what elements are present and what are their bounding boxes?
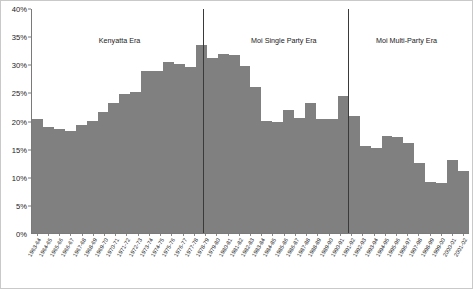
bar — [349, 116, 360, 233]
x-axis-tick-mark — [418, 234, 419, 236]
x-axis-tick: 1972-73 — [132, 234, 143, 289]
bar — [185, 67, 196, 233]
x-axis-tick: 2001-02 — [458, 234, 469, 289]
x-axis-tick-mark — [463, 234, 464, 236]
x-axis-tick-mark — [160, 234, 161, 236]
bar — [447, 160, 458, 233]
x-axis-tick-mark — [340, 234, 341, 236]
y-axis-tick-label: 15% — [12, 145, 27, 154]
bar — [425, 182, 436, 233]
x-axis-tick: 1968-69 — [87, 234, 98, 289]
x-axis-tick-mark — [194, 234, 195, 236]
x-axis-tick-mark — [126, 234, 127, 236]
bar — [338, 96, 349, 233]
y-axis-tick-label: 0% — [16, 230, 27, 239]
bar — [360, 146, 371, 233]
x-axis-tick-mark — [183, 234, 184, 236]
divider-kenyatta-moi-single — [203, 9, 204, 233]
bar — [174, 64, 185, 233]
x-axis-tick: 1978-79 — [199, 234, 210, 289]
y-axis-tick-label: 20% — [12, 117, 27, 126]
x-axis-tick: 1997-98 — [413, 234, 424, 289]
bar — [382, 136, 393, 233]
x-axis-tick: 1969-70 — [98, 234, 109, 289]
bar — [32, 119, 43, 233]
bar — [240, 66, 251, 233]
x-axis-tick: 1977-78 — [188, 234, 199, 289]
x-axis-tick: 1971-72 — [121, 234, 132, 289]
y-axis-tick-label: 25% — [12, 89, 27, 98]
x-axis-tick-mark — [70, 234, 71, 236]
x-axis-tick: 1966-67 — [65, 234, 76, 289]
x-axis-tick: 1995-96 — [390, 234, 401, 289]
x-axis-tick: 1981-82 — [233, 234, 244, 289]
x-axis-tick: 2000-01 — [447, 234, 458, 289]
x-axis-tick-mark — [59, 234, 60, 236]
y-axis-tick-label: 5% — [16, 201, 27, 210]
x-axis-tick-mark — [317, 234, 318, 236]
x-axis-tick-mark — [385, 234, 386, 236]
x-axis-tick: 1993-94 — [368, 234, 379, 289]
bar — [403, 143, 414, 233]
bar — [76, 125, 87, 233]
x-axis-tick-mark — [171, 234, 172, 236]
x-axis-tick: 1984-85 — [267, 234, 278, 289]
bar — [327, 119, 338, 233]
x-axis-tick: 1979-80 — [211, 234, 222, 289]
bar — [316, 119, 327, 233]
x-axis-tick-mark — [284, 234, 285, 236]
x-axis-tick-mark — [93, 234, 94, 236]
era-label-moi-single: Moi Single Party Era — [251, 36, 317, 45]
bar — [392, 137, 403, 233]
x-axis-tick-mark — [441, 234, 442, 236]
x-axis-tick-mark — [272, 234, 273, 236]
x-axis-tick-mark — [37, 234, 38, 236]
bar — [152, 71, 163, 233]
bar — [54, 129, 65, 233]
x-axis-tick-mark — [396, 234, 397, 236]
bar — [163, 62, 174, 233]
y-axis-tick-label: 40% — [12, 5, 27, 14]
y-axis: 0%5%10%15%20%25%30%35%40% — [0, 0, 31, 243]
x-axis-tick-mark — [149, 234, 150, 236]
x-axis-tick: 1990-91 — [334, 234, 345, 289]
x-axis-tick: 1998-99 — [424, 234, 435, 289]
x-axis-tick-mark — [216, 234, 217, 236]
chart-container: 0%5%10%15%20%25%30%35%40% Kenyatta EraMo… — [0, 0, 473, 289]
x-axis-tick: 1974-75 — [155, 234, 166, 289]
bar — [196, 45, 207, 233]
x-axis-tick: 1980-81 — [222, 234, 233, 289]
x-axis: 1963-641964-651965-661966-671967-681968-… — [31, 234, 469, 289]
bar — [436, 183, 447, 233]
bar — [43, 127, 54, 233]
x-axis-tick-mark — [362, 234, 363, 236]
bar — [283, 110, 294, 233]
bar — [141, 71, 152, 233]
bar — [229, 55, 240, 233]
y-axis-tick-label: 30% — [12, 61, 27, 70]
x-axis-tick: 1992-93 — [357, 234, 368, 289]
x-axis-tick: 1973-74 — [143, 234, 154, 289]
x-axis-tick-mark — [374, 234, 375, 236]
bar — [305, 103, 316, 233]
x-axis-tick: 1985-86 — [278, 234, 289, 289]
x-axis-tick: 1999-00 — [435, 234, 446, 289]
x-axis-tick: 1983-84 — [256, 234, 267, 289]
x-axis-tick-mark — [329, 234, 330, 236]
x-axis-tick: 1967-68 — [76, 234, 87, 289]
x-axis-tick-mark — [104, 234, 105, 236]
x-axis-tick: 1986-87 — [289, 234, 300, 289]
x-axis-tick-mark — [250, 234, 251, 236]
x-axis-tick: 1965-66 — [53, 234, 64, 289]
x-axis-tick-mark — [82, 234, 83, 236]
x-axis-tick: 1994-95 — [379, 234, 390, 289]
x-axis-tick: 1996-97 — [402, 234, 413, 289]
x-axis-tick-mark — [261, 234, 262, 236]
x-axis-tick: 1964-65 — [42, 234, 53, 289]
bar — [65, 131, 76, 233]
x-axis-tick: 1988-89 — [312, 234, 323, 289]
divider-moi-single-moi-multi — [348, 9, 349, 233]
y-axis-tick-label: 35% — [12, 33, 27, 42]
x-axis-tick-mark — [430, 234, 431, 236]
x-axis-tick: 1970-71 — [110, 234, 121, 289]
